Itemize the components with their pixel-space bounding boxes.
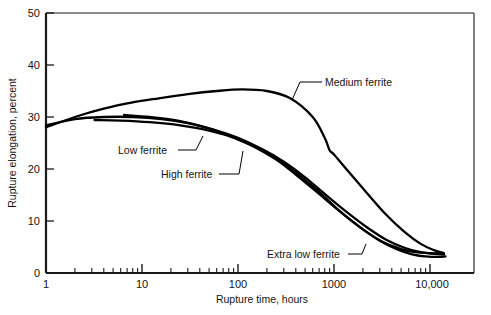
x-axis-tick-labels: 1 10 100 1000 10,000 xyxy=(43,278,449,290)
plot-frame xyxy=(46,13,474,273)
x-tick-label-1: 1 xyxy=(43,278,49,290)
leader-line xyxy=(178,136,203,150)
series-annotations: Medium ferriteLow ferriteHigh ferriteExt… xyxy=(118,76,392,260)
y-axis-title: Rupture elongation, percent xyxy=(6,78,18,208)
x-tick-label-10000: 10,000 xyxy=(415,278,449,290)
series-label-extra-low-ferrite: Extra low ferrite xyxy=(267,248,340,260)
leader-line xyxy=(219,151,243,174)
series-label-low-ferrite: Low ferrite xyxy=(118,144,167,156)
y-tick-label-50: 50 xyxy=(28,7,40,19)
x-axis-title: Rupture time, hours xyxy=(216,293,308,305)
y-tick-label-10: 10 xyxy=(28,215,40,227)
leader-line xyxy=(292,82,322,100)
y-tick-label-30: 30 xyxy=(28,111,40,123)
rupture-elongation-chart: 0 10 20 30 40 50 1 10 100 1000 10,000 Ru… xyxy=(0,0,491,315)
y-axis-ticks xyxy=(46,13,54,273)
curve-medium-ferrite xyxy=(46,89,444,253)
chart-canvas: 0 10 20 30 40 50 1 10 100 1000 10,000 Ru… xyxy=(0,0,491,315)
y-axis-tick-labels: 0 10 20 30 40 50 xyxy=(28,7,40,279)
curve-extra-low-ferrite xyxy=(46,117,445,257)
series-label-medium-ferrite: Medium ferrite xyxy=(325,76,392,88)
data-series-group xyxy=(46,89,445,256)
x-tick-label-100: 100 xyxy=(229,278,247,290)
series-label-high-ferrite: High ferrite xyxy=(161,168,213,180)
leader-line xyxy=(348,244,366,254)
y-tick-label-20: 20 xyxy=(28,163,40,175)
y-tick-label-40: 40 xyxy=(28,59,40,71)
x-tick-label-10: 10 xyxy=(136,278,148,290)
curve-low-ferrite xyxy=(94,120,444,254)
curve-high-ferrite xyxy=(124,115,442,253)
y-tick-label-0: 0 xyxy=(34,267,40,279)
x-tick-label-1000: 1000 xyxy=(322,278,346,290)
